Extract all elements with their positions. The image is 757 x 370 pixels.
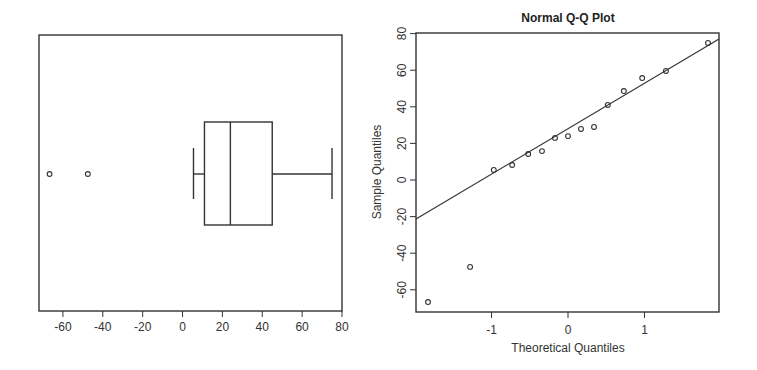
qq-x-axis: -101 [486, 312, 648, 337]
x-tick-label: -60 [54, 320, 72, 334]
x-tick-label: 0 [565, 323, 572, 337]
qq-data-point [491, 168, 496, 173]
x-tick-label: 80 [335, 320, 349, 334]
qq-x-axis-label: Theoretical Quantiles [511, 341, 624, 355]
qq-data-point [426, 300, 431, 305]
y-tick-label: 0 [395, 176, 409, 183]
qq-data-point [706, 41, 711, 46]
y-tick-label: -20 [395, 208, 409, 226]
qq-plot-title: Normal Q-Q Plot [521, 11, 614, 25]
x-tick-label: -20 [134, 320, 152, 334]
x-tick-label: 20 [216, 320, 230, 334]
qq-data-point [621, 89, 626, 94]
qq-data-point [592, 125, 597, 130]
x-tick-label: 0 [179, 320, 186, 334]
qq-reference-line [416, 39, 719, 219]
y-tick-label: 60 [395, 63, 409, 77]
qq-data-point [540, 149, 545, 154]
x-tick-label: 40 [256, 320, 270, 334]
y-tick-label: 20 [395, 136, 409, 150]
qq-data-point [579, 127, 584, 132]
boxplot-body [193, 122, 332, 225]
y-tick-label: 80 [395, 27, 409, 41]
qq-data-point [566, 134, 571, 139]
boxplot-frame [39, 35, 342, 311]
qq-y-axis: -60-40-20020406080 [395, 27, 416, 299]
x-tick-label: -1 [486, 323, 497, 337]
y-tick-label: -60 [395, 281, 409, 299]
boxplot-outliers [47, 172, 90, 177]
x-tick-label: 1 [641, 323, 648, 337]
qq-plot-panel: Normal Q-Q Plot -101 -60-40-20020406080 … [370, 11, 719, 355]
figure: -60-40-20020406080 Normal Q-Q Plot -101 … [0, 0, 757, 370]
iqr-box [204, 122, 272, 225]
y-tick-label: -40 [395, 244, 409, 262]
qq-data-point [468, 265, 473, 270]
qq-points [426, 41, 711, 305]
y-tick-label: 40 [395, 100, 409, 114]
x-tick-label: 60 [295, 320, 309, 334]
qq-plot-frame [416, 33, 719, 312]
boxplot-x-axis: -60-40-20020406080 [54, 311, 349, 334]
outlier-point [47, 172, 52, 177]
boxplot-panel: -60-40-20020406080 [39, 35, 349, 334]
outlier-point [85, 172, 90, 177]
figure-canvas: -60-40-20020406080 Normal Q-Q Plot -101 … [0, 0, 757, 370]
qq-data-point [640, 76, 645, 81]
qq-data-point [510, 163, 515, 168]
x-tick-label: -40 [94, 320, 112, 334]
qq-y-axis-label: Sample Quantiles [370, 125, 384, 220]
